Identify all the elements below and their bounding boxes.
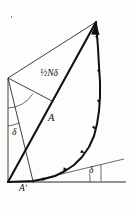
label-amplitude-a: A: [48, 113, 54, 124]
figure-canvas: ½Nδ A Aʹ δ δ: [0, 0, 130, 215]
phasor-tick-6: [97, 69, 100, 74]
angle-arc-half-n-delta: [8, 94, 33, 108]
label-half-n-delta: ½Nδ: [40, 69, 58, 79]
phasor-tick-3: [80, 150, 85, 153]
angle-arc-delta-left: [8, 123, 20, 126]
page-speck: [11, 16, 12, 18]
label-delta-left: δ: [12, 128, 16, 138]
label-amplitude-a-prime: Aʹ: [19, 184, 27, 194]
resultant-vector-A: [8, 22, 96, 182]
label-delta-right: δ: [89, 166, 93, 176]
